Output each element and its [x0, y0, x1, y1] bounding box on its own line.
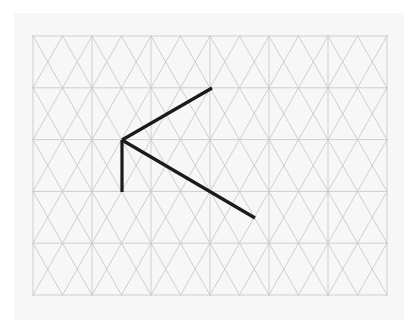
figure-root — [0, 0, 417, 333]
figure-canvas — [0, 0, 417, 333]
upper-diagonal-segment — [122, 88, 212, 140]
grid-layer — [33, 36, 387, 295]
